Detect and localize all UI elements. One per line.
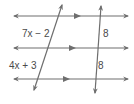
label-left-bottom-segment: 4x + 3	[9, 61, 37, 71]
label-right-top-segment: 8	[103, 29, 109, 39]
label-right-bottom-segment: 8	[98, 61, 104, 71]
right-transversal	[95, 6, 101, 93]
parallel-marker-icon	[74, 13, 81, 19]
parallel-lines-diagram	[0, 0, 134, 104]
label-left-top-segment: 7x − 2	[22, 29, 50, 39]
parallel-marker-icon	[69, 45, 76, 51]
parallel-marker-icon	[63, 76, 70, 82]
